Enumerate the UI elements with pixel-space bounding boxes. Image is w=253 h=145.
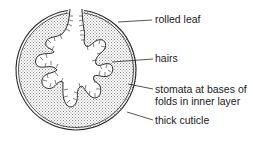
label-thick-cuticle: thick cuticle — [155, 115, 209, 126]
leader-rolled-leaf — [118, 20, 152, 22]
label-stomata-line2: folds in inner layer — [155, 96, 240, 107]
leader-thick-cuticle — [127, 112, 153, 120]
leaf-cross-section-diagram — [0, 0, 253, 145]
label-hairs: hairs — [155, 53, 178, 64]
label-rolled-leaf: rolled leaf — [155, 14, 201, 25]
label-stomata-line1: stomata at bases of — [155, 84, 247, 95]
